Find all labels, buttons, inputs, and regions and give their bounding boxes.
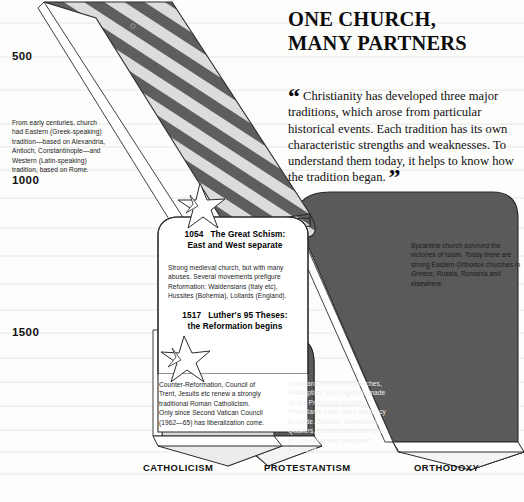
year-label-1000: 1000 [12, 174, 39, 186]
page-title-line-1: ONE CHURCH, [288, 8, 520, 32]
quote-close-icon: ” [389, 164, 400, 190]
page-title-line-2: MANY PARTNERS [288, 32, 520, 56]
year-label-500: 500 [12, 50, 32, 62]
note-protestantism: Lutherans, Reformed churches, Anabaptist… [288, 379, 386, 454]
pull-quote-text: Christianity has developed three major t… [288, 89, 514, 184]
note-early-church: From early centuries, church had Eastern… [12, 118, 106, 175]
note-medieval: Strong medieval church, but with many ab… [168, 263, 294, 301]
event-year-1054: 1054 [185, 229, 204, 239]
quote-open-icon: “ [288, 83, 299, 109]
note-catholicism: Counter-Reformation, Council of Trent, J… [159, 380, 265, 427]
event-year-1517: 1517 [182, 310, 201, 320]
branch-label-protestantism: PROTESTANTISM [264, 462, 351, 473]
branch-label-orthodoxy: ORTHODOXY [414, 462, 479, 473]
event-title-1517-line2: the Reformation begins [188, 321, 283, 331]
event-title-1054-line1: The Great Schism: [210, 229, 285, 239]
note-orthodoxy: Byzantine church survived the victories … [411, 241, 523, 288]
infographic-canvas: ONE CHURCH, MANY PARTNERS “Christianity … [0, 0, 524, 502]
pull-quote: “Christianity has developed three major … [288, 88, 520, 186]
year-label-1500: 1500 [12, 326, 39, 338]
page-title: ONE CHURCH, MANY PARTNERS [288, 8, 520, 56]
branch-label-catholicism: CATHOLICISM [143, 462, 213, 473]
event-callout-1054: 1054The Great Schism: East and West sepa… [168, 229, 302, 250]
event-callout-1517: 1517Luther's 95 Theses: the Reformation … [168, 310, 302, 331]
event-title-1054-line2: East and West separate [187, 240, 282, 250]
event-title-1517-line1: Luther's 95 Theses: [208, 310, 288, 320]
